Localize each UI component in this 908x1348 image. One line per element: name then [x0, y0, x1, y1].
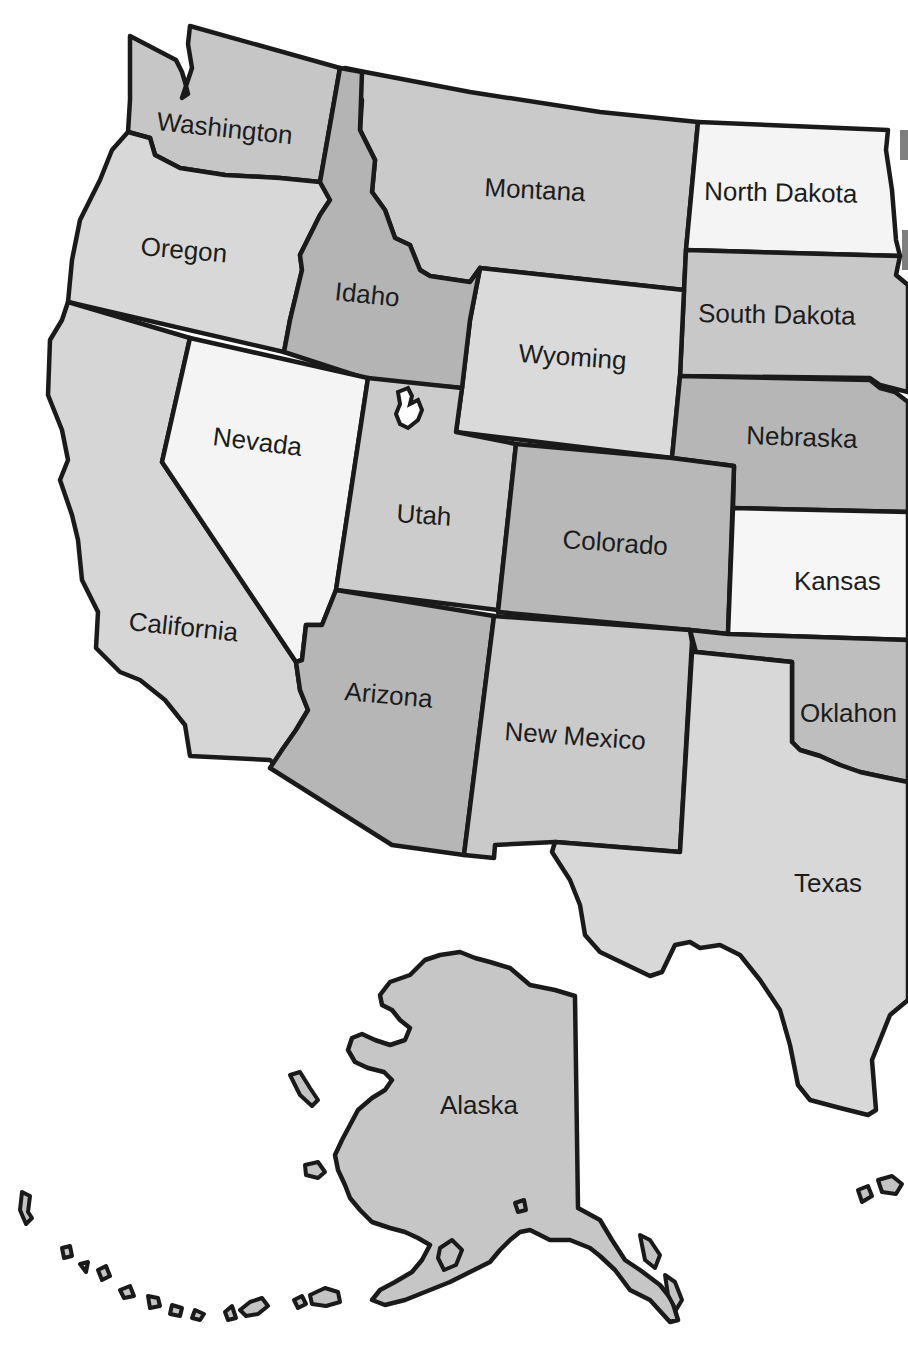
- island: [170, 1305, 182, 1316]
- island: [878, 1176, 902, 1194]
- state-arizona[interactable]: [270, 590, 494, 855]
- island: [310, 1288, 340, 1306]
- island: [294, 1296, 306, 1308]
- label-kansas: Kansas: [794, 566, 881, 596]
- island: [240, 1298, 268, 1316]
- label-utah: Utah: [396, 498, 453, 532]
- label-nebraska: Nebraska: [746, 420, 859, 454]
- island: [305, 1162, 325, 1178]
- page-gutter-shadow: [902, 230, 908, 270]
- page-gutter-shadow: [900, 130, 908, 160]
- island: [515, 1200, 526, 1212]
- label-texas: Texas: [794, 868, 862, 898]
- island: [225, 1306, 236, 1320]
- island: [120, 1286, 134, 1298]
- island: [98, 1266, 110, 1280]
- island: [640, 1235, 660, 1268]
- label-north-dakota: North Dakota: [704, 176, 858, 209]
- island: [148, 1296, 160, 1308]
- label-montana: Montana: [484, 172, 587, 207]
- island: [80, 1262, 88, 1272]
- island: [290, 1072, 318, 1106]
- state-alaska[interactable]: [335, 952, 678, 1322]
- island: [192, 1310, 204, 1320]
- island: [20, 1192, 32, 1224]
- label-alaska: Alaska: [440, 1090, 519, 1120]
- island: [62, 1246, 72, 1258]
- label-south-dakota: South Dakota: [698, 298, 857, 331]
- label-oklahoma: Oklahon: [800, 698, 897, 728]
- western-us-map: Washington Oregon Idaho Montana North Da…: [0, 0, 908, 1348]
- island: [858, 1186, 872, 1202]
